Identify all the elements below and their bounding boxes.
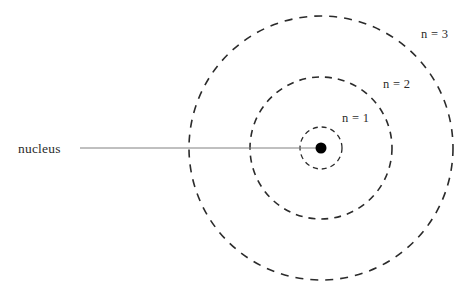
nucleus-dot [316,143,327,154]
bohr-atom-diagram: nucleus n = 1 n = 2 n = 3 [0,0,475,304]
shell-label-n2: n = 2 [383,77,410,91]
shell-label-n1: n = 1 [342,111,369,125]
shell-label-n3: n = 3 [421,27,448,41]
diagram-canvas: nucleus n = 1 n = 2 n = 3 [0,0,475,304]
nucleus-label: nucleus [18,141,61,156]
